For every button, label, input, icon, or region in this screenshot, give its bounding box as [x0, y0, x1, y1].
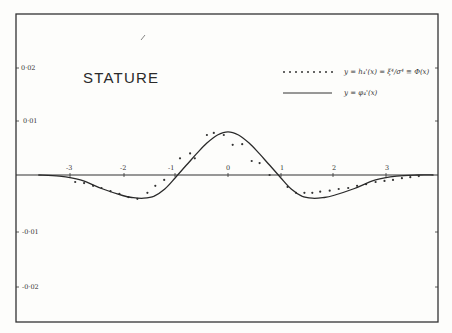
y-tick-label: 0·02 — [21, 64, 35, 72]
y-tick-label: -0·02 — [22, 283, 39, 291]
x-tick-label: 2 — [332, 164, 336, 172]
chart-title: STATURE — [83, 69, 159, 86]
x-tick-label: 1 — [280, 164, 284, 172]
legend-label-dotted: y = h₄'(x) = ξ⁴/σ⁴ ≡ Φ(x) — [343, 68, 430, 76]
legend-label-solid: y = φ₄'(x) — [343, 89, 378, 97]
x-tick-label: -3 — [66, 164, 72, 172]
y-tick-label: -0·01 — [22, 228, 39, 236]
legend: y = h₄'(x) = ξ⁴/σ⁴ ≡ Φ(x) y = φ₄'(x) — [283, 68, 430, 97]
x-tick-label: 3 — [385, 164, 389, 172]
x-tick-label: -1 — [168, 164, 174, 172]
stray-mark — [141, 35, 145, 40]
x-tick-label: -2 — [120, 164, 126, 172]
series-solid-curve — [38, 132, 433, 199]
y-ticks — [16, 68, 438, 287]
legend-dotted-marker — [283, 71, 333, 73]
y-tick-label: 0·01 — [23, 117, 37, 125]
chart-figure: 0·02 0·01 -0·01 -0·02 -3 -2 -1 0 1 2 3 S… — [0, 0, 452, 333]
x-tick-label: 0 — [226, 164, 230, 172]
